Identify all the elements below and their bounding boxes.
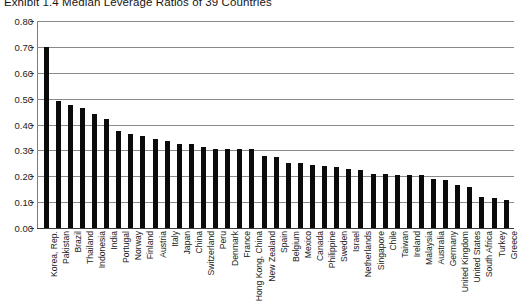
bar [419,175,424,228]
x-label-slot: Mexico [294,231,306,301]
bar [189,144,194,228]
y-axis-tick-label: 0.70 [1,41,33,52]
bar-slot [428,21,440,228]
x-label-slot: India [101,231,113,301]
bar-slot [137,21,149,228]
bar-slot [149,21,161,228]
bar [140,136,145,228]
x-axis-labels: Korea, Rep.PakistanBrazilThailandIndones… [37,231,514,301]
bar-slot [500,21,512,228]
bar [237,149,242,228]
bar-slot [234,21,246,228]
bar [213,149,218,228]
bar-slot [161,21,173,228]
bar-slot [210,21,222,228]
bar-slot [355,21,367,228]
bar-slot [476,21,488,228]
x-label-slot: China [185,231,197,301]
x-label-slot: New Zealand [258,231,270,301]
y-axis-tick-mark [30,228,34,229]
x-label-slot: Belgium [282,231,294,301]
bar [492,198,497,228]
bar-slot [379,21,391,228]
bar [249,149,254,228]
bar-slot [173,21,185,228]
bar [165,141,170,228]
bar [44,47,49,228]
bar [467,187,472,228]
bar [455,185,460,228]
bar [56,101,61,228]
y-axis-tick-mark [30,21,34,22]
x-label-slot: Hong Kong, China [246,231,258,301]
bar [298,163,303,228]
x-label-slot: Taiwan [391,231,403,301]
chart-title: Exhibit 1.4 Median Leverage Ratios of 39… [4,0,272,8]
x-label-slot: Spain [270,231,282,301]
x-label-slot: Malaysia [415,231,427,301]
bar-slot [391,21,403,228]
y-axis-tick-label: 0.10 [1,197,33,208]
x-label-slot: France [234,231,246,301]
x-label-slot: Australia [428,231,440,301]
x-label-slot: Germany [440,231,452,301]
bar-slot [440,21,452,228]
x-label-slot: Austria [149,231,161,301]
plot-area [37,21,514,228]
bar [346,169,351,229]
y-axis-tick-mark [30,202,34,203]
bar-slot [185,21,197,228]
x-label-slot: Peru [210,231,222,301]
x-label-slot: Japan [173,231,185,301]
x-label-slot: South Africa [476,231,488,301]
x-label-slot: Philippine [319,231,331,301]
bar [358,170,363,228]
bar [104,119,109,228]
bar-slot [452,21,464,228]
bar [116,131,121,228]
bar-slot [319,21,331,228]
x-label-slot: Norway [125,231,137,301]
bar-slot [76,21,88,228]
bar-slot [101,21,113,228]
bar-slot [343,21,355,228]
chart-figure: Exhibit 1.4 Median Leverage Ratios of 39… [0,0,518,302]
bar [201,147,206,229]
bar [80,108,85,228]
x-label-slot: Turkey [488,231,500,301]
bar [274,157,279,228]
x-label-slot: Canada [306,231,318,301]
bar [153,139,158,228]
bar-slot [488,21,500,228]
y-axis-tick-label: 0.40 [1,119,33,130]
bar-slot [331,21,343,228]
bar-slot [403,21,415,228]
bar-slot [88,21,100,228]
y-axis-tick-mark [30,99,34,100]
x-label-slot: Sweden [331,231,343,301]
bar [128,134,133,228]
bar [68,105,73,228]
y-axis-tick-label: 0.30 [1,145,33,156]
x-label-slot: Ireland [403,231,415,301]
bar-slot [282,21,294,228]
bar [371,174,376,228]
y-axis-tick-mark [30,150,34,151]
bar-slot [246,21,258,228]
bar-slot [40,21,52,228]
y-axis-labels: 0.800.700.600.500.400.300.200.100.00 [0,21,33,228]
y-axis-tick-mark [30,73,34,74]
y-axis-tick-mark [30,47,34,48]
bar-slot [258,21,270,228]
bar [310,165,315,228]
bar [383,174,388,228]
x-label-slot: Brazil [64,231,76,301]
bar-slot [113,21,125,228]
bar-slot [270,21,282,228]
bar [286,163,291,228]
y-axis-tick-label: 0.20 [1,171,33,182]
x-label-slot: Indonesia [88,231,100,301]
x-label-slot: Chile [379,231,391,301]
x-label-slot: Portugal [113,231,125,301]
bar [177,144,182,228]
